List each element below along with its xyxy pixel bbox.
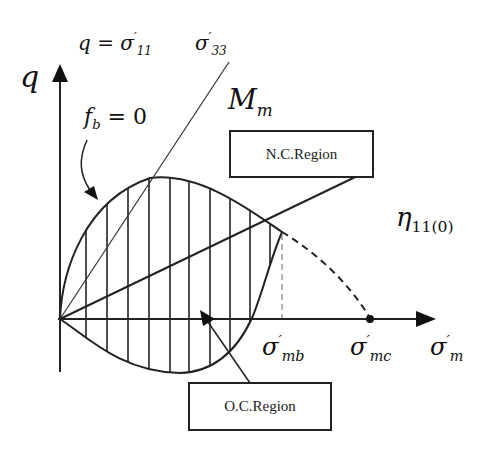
dashed-curve [282,232,370,318]
oc-pointer-arrow-icon [200,310,215,326]
oc-region-box: O.C.Region [188,382,332,431]
fb-pointer-arrow-icon [84,186,98,200]
eta-label: η11(0) [396,204,454,236]
y-axis-label: q [20,62,39,92]
q-axis-arrow-icon [52,64,68,82]
fb-label: fb = 0 [84,106,147,132]
hatching [86,160,270,380]
nc-region-label: N.C.Region [266,146,338,163]
sigma-m-axis-arrow-icon [416,311,436,327]
x-axis-label: σ′m [430,334,463,363]
nc-region-box: N.C.Region [229,130,374,178]
sigma-mc-point [366,315,374,323]
q-equation-label: q = σ′11 [78,32,152,57]
critical-state-line-Mm [60,62,229,319]
sigma-mc-label: σ′mc [350,334,391,363]
oc-region-label: O.C.Region [224,398,296,415]
sigma33-label: σ′33 [195,32,227,57]
Mm-label: Mm [228,86,273,118]
yield-curve-fb [60,177,282,373]
fb-pointer [81,140,90,190]
sigma-mb-label: σ′mb [262,334,305,363]
oc-pointer [208,322,250,383]
